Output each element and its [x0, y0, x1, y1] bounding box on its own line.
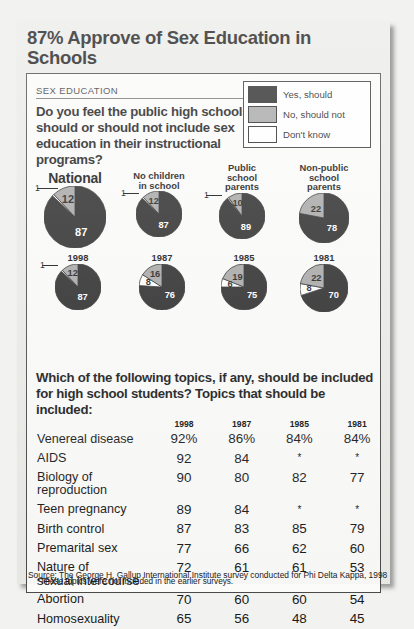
topic-value: 89 — [155, 500, 213, 519]
topic-value: 45 — [328, 610, 386, 629]
table-row: Venereal disease92%86%84%84% — [37, 430, 386, 449]
page-title: 87% Approve of Sex Education in Schools — [27, 28, 380, 69]
legend-item-yes: Yes, should — [248, 86, 365, 103]
leader-label: 1 — [121, 188, 126, 198]
pie-graphic: 70822 — [300, 264, 348, 312]
topic-value: * — [328, 500, 386, 519]
topic-value: 86% — [213, 430, 271, 449]
question-one: Do you feel the public high schools shou… — [36, 104, 261, 169]
leader-label: 1 — [40, 260, 45, 270]
pie-title: Non-publicschoolparents — [294, 163, 354, 193]
chart-legend: Yes, should No, should not Don't know — [243, 81, 371, 148]
topic-value: 84 — [213, 449, 271, 468]
report-page: 87% Approve of Sex Education in Schools … — [17, 22, 390, 584]
topic-value: 66 — [213, 539, 271, 558]
legend-swatch-no — [248, 106, 277, 123]
source-line: Source: The George H. Gallup Internation… — [28, 570, 380, 580]
legend-item-no: No, should not — [248, 106, 365, 123]
topic-label: Venereal disease — [37, 430, 155, 449]
topic-value: 60 — [328, 539, 386, 558]
pie-chart-1981: 198170822 — [294, 253, 354, 312]
topics-table-body: Venereal disease92%86%84%84%AIDS9284**Bi… — [37, 430, 386, 629]
pie-title: Publicschoolparents — [212, 163, 272, 193]
pie-chart-no-children-in-school: No childrenin school87121 — [129, 171, 189, 238]
topic-value: 84% — [328, 430, 386, 449]
topic-value: 84% — [271, 430, 329, 449]
topics-col-1998: 1998 — [155, 419, 213, 430]
topic-value: 87 — [155, 520, 213, 539]
pie-chart-public-school-parents: Publicschoolparents89101 — [212, 163, 272, 240]
pie-title: 1987 — [132, 253, 192, 263]
topic-label: AIDS — [37, 449, 155, 468]
topic-label: Biology ofreproduction — [37, 469, 155, 501]
topics-header-row: 1998 1987 1985 1981 — [37, 419, 386, 430]
pie-graphic: 8712 — [44, 186, 106, 248]
pie-graphic: 8712 — [136, 191, 182, 237]
pie-title: 1981 — [294, 253, 354, 263]
topic-value: 70 — [155, 590, 213, 609]
topic-value: 80 — [213, 469, 271, 501]
section-kicker: SEX EDUCATION — [36, 85, 254, 99]
topic-value: * — [271, 449, 329, 468]
table-row: AIDS9284** — [37, 449, 386, 468]
legend-swatch-yes — [248, 86, 277, 103]
topics-col-1981: 1981 — [328, 419, 386, 430]
table-row: Birth control87838579 — [37, 520, 386, 539]
table-row: Biology ofreproduction90808277 — [37, 469, 386, 501]
topic-value: 54 — [328, 590, 386, 609]
pie-graphic: 76816 — [139, 264, 185, 310]
topic-value: 65 — [155, 610, 213, 629]
topic-value: 84 — [213, 500, 271, 519]
topic-value: 85 — [271, 520, 329, 539]
topic-value: 92 — [155, 449, 213, 468]
topic-label: Birth control — [37, 520, 155, 539]
topics-table-head: 1998 1987 1985 1981 — [37, 419, 386, 430]
topic-value: 92% — [155, 430, 213, 449]
table-row: Abortion70606054 — [37, 590, 386, 609]
legend-label-dontknow: Don't know — [283, 129, 330, 140]
topic-value: * — [271, 500, 329, 519]
topic-value: 56 — [213, 610, 271, 629]
topic-value: 82 — [271, 469, 329, 501]
question-two: Which of the following topics, if any, s… — [36, 370, 376, 419]
legend-label-no: No, should not — [283, 109, 345, 120]
topics-col-topic — [37, 419, 155, 430]
pie-slice — [299, 193, 324, 218]
topic-label: Homosexuality — [37, 610, 155, 629]
pie-slice — [300, 264, 324, 288]
pie-chart-non-public-school-parents: Non-publicschoolparents7822 — [294, 163, 354, 244]
source-area: Source: The George H. Gallup Internation… — [17, 558, 390, 584]
topics-col-1987: 1987 — [213, 419, 271, 430]
pie-chart-1998: 199887121 — [48, 253, 108, 310]
legend-item-dontknow: Don't know — [248, 126, 365, 143]
leader-label: 1 — [35, 183, 40, 193]
topic-label: Abortion — [37, 590, 155, 609]
topics-col-1985: 1985 — [271, 419, 329, 430]
topic-value: 83 — [213, 520, 271, 539]
pie-title: National — [44, 171, 106, 186]
leader-label: 1 — [204, 190, 209, 200]
topic-value: 62 — [271, 539, 329, 558]
topic-label: Premarital sex — [37, 539, 155, 558]
topics-table: 1998 1987 1985 1981 Venereal disease92%8… — [37, 419, 386, 629]
topic-value: 77 — [155, 539, 213, 558]
topic-value: 90 — [155, 469, 213, 501]
topic-value: * — [328, 449, 386, 468]
chart-card: SEX EDUCATION Do you feel the public hig… — [26, 73, 381, 593]
pie-graphic: 7822 — [299, 193, 349, 243]
pie-graphic: 8712 — [55, 264, 101, 310]
table-row: Homosexuality65564845 — [37, 610, 386, 629]
pie-title: 1985 — [214, 253, 274, 263]
legend-swatch-dontknow — [248, 126, 277, 143]
topic-value: 60 — [213, 590, 271, 609]
topic-value: 77 — [328, 469, 386, 501]
pie-graphic: 8910 — [219, 193, 265, 239]
pie-title: 1998 — [48, 253, 108, 263]
topic-label: Teen pregnancy — [37, 500, 155, 519]
pie-chart-national: National87121 — [44, 171, 106, 249]
table-row: Premarital sex77666260 — [37, 539, 386, 558]
table-row: Teen pregnancy8984** — [37, 500, 386, 519]
topic-value: 60 — [271, 590, 329, 609]
legend-label-yes: Yes, should — [283, 89, 332, 100]
pie-chart-1987: 198776816 — [132, 253, 192, 310]
